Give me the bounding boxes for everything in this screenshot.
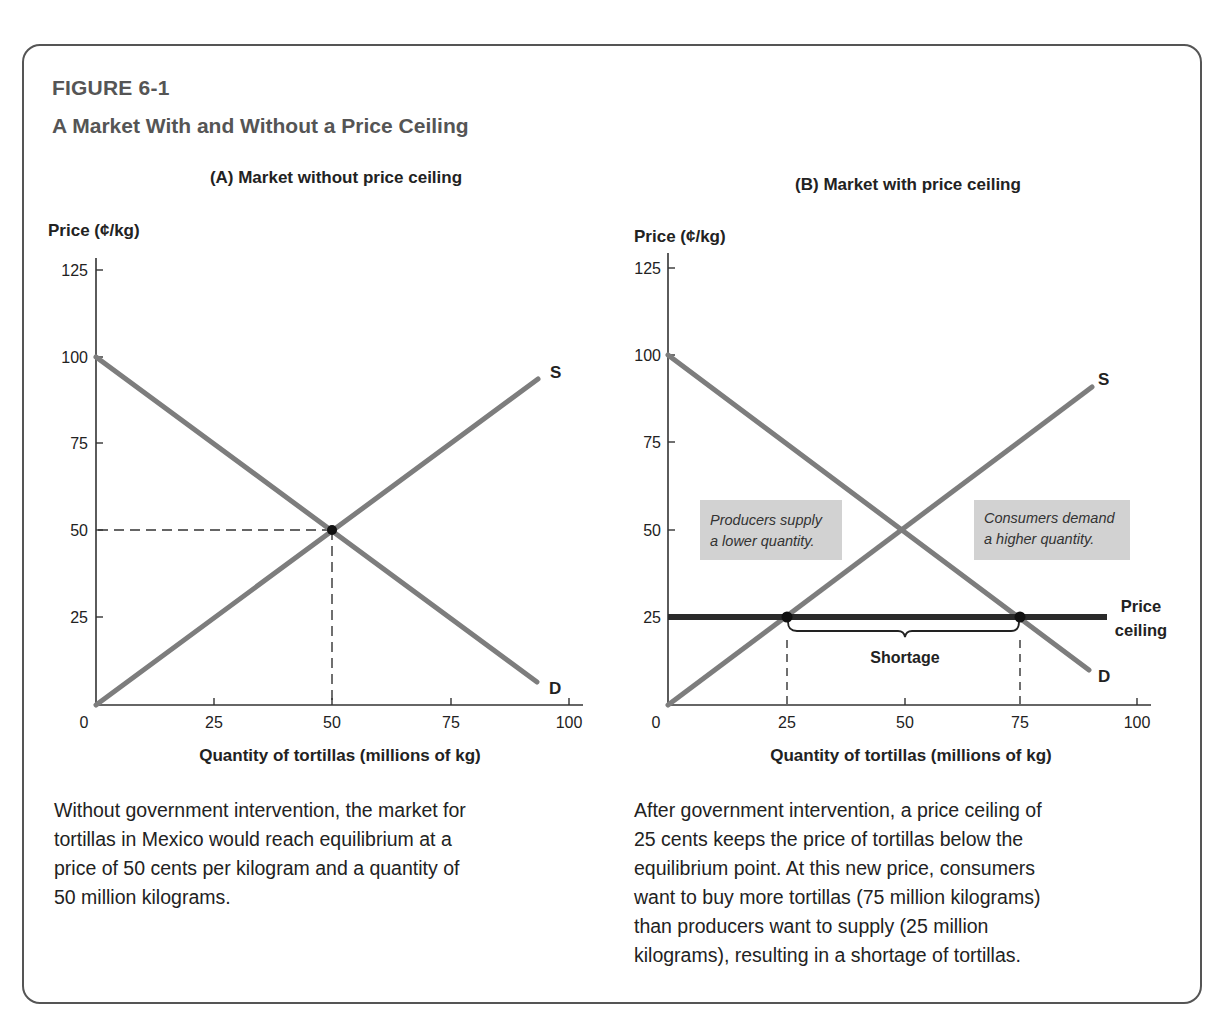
panel-b-x-tick: 25 [778,714,796,731]
caption-line: equilibrium point. At this new price, co… [634,854,1194,883]
panel-b-x-axis-label: Quantity of tortillas (millions of kg) [770,746,1051,765]
panel-a-y-tick: 75 [70,435,88,452]
panel-b-y-tick: 50 [643,522,661,539]
panel-b-x-tick: 50 [896,714,914,731]
panel-b-y-tick: 75 [643,434,661,451]
panel-b-x-tick: 100 [1124,714,1151,731]
quantity-demanded-point [1015,612,1026,623]
panel-b-y-tick: 125 [634,260,661,277]
caption-line: want to buy more tortillas (75 million k… [634,883,1194,912]
price-ceiling-label: ceiling [1115,621,1167,639]
panel-a-x-tick: 25 [205,714,223,731]
panel-a-caption: Without government intervention, the mar… [54,796,614,912]
shortage-label: Shortage [870,649,939,666]
svg-text:Consumers demand: Consumers demand [984,510,1115,526]
panel-b-chart: Price (¢/kg) 125 100 75 50 25 0 25 50 75… [634,227,1167,765]
panel-a-chart: Price (¢/kg) 125 100 75 50 25 0 25 [48,221,583,765]
caption-line: Without government intervention, the mar… [54,796,614,825]
panel-a-x-axis-label: Quantity of tortillas (millions of kg) [199,746,480,765]
panel-a-y-tick: 50 [70,522,88,539]
panel-b-x-tick: 75 [1011,714,1029,731]
panel-a-demand-curve [96,357,537,682]
panel-a-y-tick: 125 [61,262,88,279]
svg-text:a higher quantity.: a higher quantity. [984,531,1094,547]
panel-a-x-tick: 50 [323,714,341,731]
panel-a-supply-curve [96,379,538,705]
panel-a-y-tick: 100 [61,349,88,366]
panel-b-demand-label: D [1098,667,1110,686]
panel-b-caption: After government intervention, a price c… [634,796,1194,970]
panel-b-y-axis-label: Price (¢/kg) [634,227,726,246]
caption-line: 25 cents keeps the price of tortillas be… [634,825,1194,854]
caption-line: tortillas in Mexico would reach equilibr… [54,825,614,854]
panel-a-y-axis-label: Price (¢/kg) [48,221,140,240]
panel-a-x-tick: 75 [442,714,460,731]
shortage-brace [788,622,1019,637]
producers-note: Producers supply a lower quantity. [700,500,842,560]
consumers-note: Consumers demand a higher quantity. [974,500,1130,560]
caption-line: After government intervention, a price c… [634,796,1194,825]
panel-a-demand-label: D [549,679,561,698]
panel-b-y-tick: 100 [634,347,661,364]
price-ceiling-label: Price [1121,597,1161,615]
quantity-supplied-point [782,612,793,623]
svg-text:Producers supply: Producers supply [710,512,823,528]
panel-b-y-tick: 25 [643,609,661,626]
caption-line: 50 million kilograms. [54,883,614,912]
panel-a-x-tick: 0 [80,714,89,731]
caption-line: kilograms), resulting in a shortage of t… [634,941,1194,970]
panel-a-supply-label: S [550,363,561,382]
panel-a-y-tick: 25 [70,609,88,626]
svg-text:a lower quantity.: a lower quantity. [710,533,815,549]
caption-line: price of 50 cents per kilogram and a qua… [54,854,614,883]
panel-a-equilibrium-point [327,525,337,535]
panel-a-x-tick: 100 [556,714,583,731]
caption-line: than producers want to supply (25 millio… [634,912,1194,941]
panel-b-x-tick: 0 [652,714,661,731]
panel-b-supply-label: S [1098,370,1109,389]
